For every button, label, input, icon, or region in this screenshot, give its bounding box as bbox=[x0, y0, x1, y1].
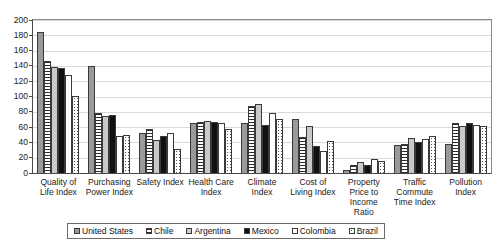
y-axis-tick-label: 120 bbox=[0, 76, 32, 87]
bar bbox=[394, 145, 401, 173]
x-axis-tick-label: Pollution Index bbox=[440, 177, 491, 217]
y-axis-tick-label: 100 bbox=[0, 91, 32, 102]
bar bbox=[51, 67, 58, 173]
y-axis: 200180160140120100806040200 bbox=[0, 19, 32, 174]
x-axis-tick-label: Health Care Index bbox=[186, 177, 237, 217]
bar bbox=[102, 116, 109, 173]
x-axis-tick-label: Traffic Commute Time Index bbox=[389, 177, 440, 217]
legend-item[interactable]: United States bbox=[74, 226, 133, 236]
legend-item[interactable]: Chile bbox=[146, 226, 173, 236]
bar bbox=[204, 121, 211, 173]
bar bbox=[262, 125, 269, 173]
bar bbox=[160, 136, 167, 173]
y-axis-tick-label: 200 bbox=[0, 15, 32, 26]
legend-label: Mexico bbox=[252, 226, 279, 236]
bar bbox=[276, 119, 283, 173]
y-axis-tick-label: 0 bbox=[0, 168, 32, 179]
y-axis-tick-label: 80 bbox=[0, 106, 32, 117]
bar-group bbox=[84, 20, 135, 173]
bar bbox=[225, 129, 232, 173]
legend-label: Colombia bbox=[300, 226, 336, 236]
x-axis-tick-label: Cost of Living Index bbox=[287, 177, 338, 217]
legend-swatch-icon bbox=[292, 228, 298, 234]
bar bbox=[429, 136, 436, 173]
bar bbox=[480, 126, 487, 173]
legend-item[interactable]: Mexico bbox=[244, 226, 279, 236]
chart-legend: United StatesChileArgentinaMexicoColombi… bbox=[67, 223, 385, 239]
bar bbox=[415, 142, 422, 173]
bar bbox=[72, 96, 79, 173]
bar bbox=[218, 123, 225, 173]
legend-item[interactable]: Colombia bbox=[292, 226, 336, 236]
x-axis-tick-label: Climate Index bbox=[237, 177, 288, 217]
bar bbox=[211, 122, 218, 173]
bar bbox=[146, 129, 153, 173]
bar bbox=[153, 140, 160, 173]
bar bbox=[320, 151, 327, 173]
bar-group bbox=[237, 20, 288, 173]
bar bbox=[299, 137, 306, 173]
bar bbox=[343, 170, 350, 173]
legend-item[interactable]: Brazil bbox=[349, 226, 378, 236]
x-axis-tick-label: Purchasing Power Index bbox=[84, 177, 135, 217]
bar bbox=[197, 122, 204, 173]
bar bbox=[408, 138, 415, 173]
bar-group bbox=[186, 20, 237, 173]
x-axis-tick-label: Safety Index bbox=[135, 177, 186, 217]
bar bbox=[37, 32, 44, 173]
bar-group bbox=[287, 20, 338, 173]
y-axis-tick-label: 160 bbox=[0, 45, 32, 56]
legend-swatch-icon bbox=[244, 228, 250, 234]
bar bbox=[422, 139, 429, 173]
y-axis-tick-label: 40 bbox=[0, 137, 32, 148]
legend-swatch-icon bbox=[74, 228, 80, 234]
bar bbox=[401, 144, 408, 173]
bar bbox=[357, 162, 364, 173]
legend-swatch-icon bbox=[349, 228, 355, 234]
bar bbox=[459, 126, 466, 173]
bar bbox=[58, 68, 65, 173]
bar bbox=[116, 136, 123, 173]
x-axis-tick-label: Quality of Life Index bbox=[33, 177, 84, 217]
bar bbox=[313, 146, 320, 173]
y-axis-tick-label: 140 bbox=[0, 60, 32, 71]
bars-layer bbox=[33, 20, 491, 173]
chart-container: 200180160140120100806040200 Quality of L… bbox=[0, 0, 504, 249]
bar bbox=[44, 61, 51, 173]
bar bbox=[445, 144, 452, 173]
x-axis: Quality of Life IndexPurchasing Power In… bbox=[33, 177, 491, 217]
y-axis-tick-label: 20 bbox=[0, 152, 32, 163]
bar bbox=[109, 115, 116, 173]
bar-group bbox=[338, 20, 389, 173]
legend-label: United States bbox=[82, 226, 133, 236]
legend-swatch-icon bbox=[186, 228, 192, 234]
bar bbox=[248, 106, 255, 173]
bar-group bbox=[135, 20, 186, 173]
y-axis-tick-label: 180 bbox=[0, 30, 32, 41]
legend-swatch-icon bbox=[146, 228, 152, 234]
bar bbox=[466, 123, 473, 173]
bar bbox=[306, 126, 313, 173]
bar bbox=[364, 165, 371, 173]
bar bbox=[190, 123, 197, 173]
bar bbox=[167, 133, 174, 173]
bar bbox=[139, 133, 146, 173]
legend-label: Argentina bbox=[194, 226, 230, 236]
bar-group bbox=[440, 20, 491, 173]
bar bbox=[292, 119, 299, 173]
bar bbox=[269, 113, 276, 173]
bar bbox=[378, 161, 385, 173]
bar bbox=[123, 135, 130, 173]
bar bbox=[473, 125, 480, 173]
bar bbox=[88, 66, 95, 173]
legend-label: Brazil bbox=[357, 226, 378, 236]
legend-item[interactable]: Argentina bbox=[186, 226, 230, 236]
bar bbox=[95, 113, 102, 173]
x-axis-tick-label: Property Price to Income Ratio bbox=[338, 177, 389, 217]
bar bbox=[452, 123, 459, 173]
bar bbox=[65, 75, 72, 173]
bar bbox=[350, 165, 357, 173]
bar-group bbox=[33, 20, 84, 173]
bar bbox=[255, 104, 262, 173]
bar bbox=[371, 159, 378, 173]
